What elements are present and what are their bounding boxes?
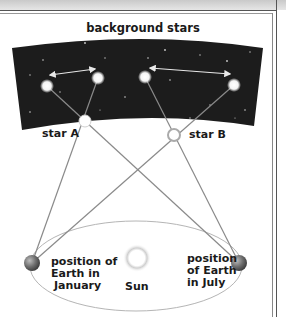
parallax-diagram — [0, 0, 286, 317]
background-star-icon — [227, 78, 241, 92]
earth-july-label-line: in July — [187, 277, 237, 289]
background-star-icon — [138, 70, 152, 84]
earth-july-label: position of Earth in July — [187, 253, 237, 289]
sun-icon — [123, 244, 151, 272]
background-star-icon — [40, 79, 54, 93]
star-a-label: star A — [42, 128, 79, 140]
background-star-icon — [91, 71, 105, 85]
diagram-title: background stars — [0, 22, 286, 34]
star-a-icon — [79, 115, 91, 127]
earth-january-label: position of Earth in January — [51, 256, 117, 292]
sun-label: Sun — [125, 281, 149, 293]
earth-january-label-line: January — [51, 280, 117, 292]
earth-january-icon — [24, 255, 40, 271]
star-b-label: star B — [189, 129, 226, 141]
star-b-icon — [168, 129, 180, 141]
